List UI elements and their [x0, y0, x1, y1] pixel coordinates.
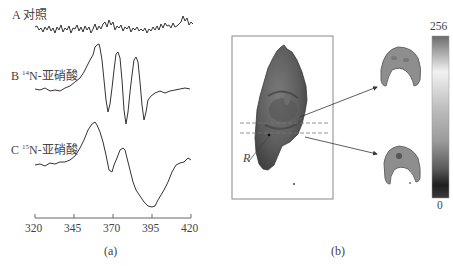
- cross-section-lower: [384, 146, 420, 184]
- caption-b: (b): [331, 244, 345, 259]
- colorbar: [432, 36, 449, 198]
- colorbar-max-label: 256: [430, 20, 447, 32]
- cross-section-upper: [381, 47, 421, 86]
- mri-figure: [0, 0, 453, 266]
- r-marker-label: R: [243, 151, 250, 166]
- colorbar-min-label: 0: [437, 199, 443, 211]
